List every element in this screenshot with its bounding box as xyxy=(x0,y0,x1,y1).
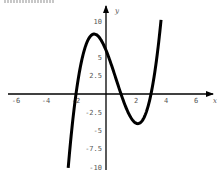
x-tick-label: 2 xyxy=(134,97,138,105)
y-tick-label: -7.5 xyxy=(85,145,102,153)
y-tick-label: -2.5 xyxy=(85,109,102,117)
y-tick-label: 10 xyxy=(94,18,102,26)
x-tick-label: 6 xyxy=(194,97,198,105)
x-tick-label: -4 xyxy=(42,97,50,105)
y-tick-label: -5 xyxy=(94,127,102,135)
function-graph: -6-4-22461052.5-2.5-5-7.5-10 x y xyxy=(0,0,219,172)
x-tick-label: -6 xyxy=(12,97,20,105)
y-tick-label: 5 xyxy=(98,54,102,62)
x-tick-label: 4 xyxy=(164,97,168,105)
y-tick-label: 2.5 xyxy=(89,72,102,80)
x-axis-label: x xyxy=(213,97,217,105)
y-tick-label: -10 xyxy=(89,164,102,172)
y-axis-label: y xyxy=(114,7,120,15)
